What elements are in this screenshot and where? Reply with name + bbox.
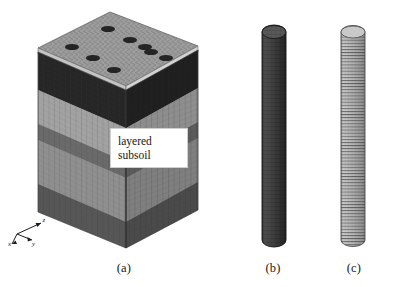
- coordinate-axis-triad: z y x: [8, 213, 50, 247]
- pile-hole: [107, 67, 121, 73]
- panel-b-pile-mesh-dark: [258, 18, 290, 252]
- pile-hole: [86, 55, 100, 61]
- pile-hole: [144, 49, 158, 55]
- pile-hole: [159, 55, 173, 61]
- callout-line-1: layered: [118, 134, 187, 148]
- layered-subsoil-callout: layered subsoil: [110, 128, 188, 168]
- callout-line-2: subsoil: [118, 148, 187, 162]
- axis-label-y: y: [31, 240, 36, 247]
- pile-hole: [101, 26, 115, 32]
- panel-c-pile-mesh-light-ringed: [338, 18, 368, 252]
- caption-c: (c): [334, 261, 374, 276]
- pile-hole: [65, 44, 79, 50]
- axis-label-x: x: [8, 240, 12, 247]
- figure-canvas: layered subsoil z y x: [0, 0, 404, 287]
- pile-b-top-mesh: [262, 26, 286, 39]
- pile-c-svg: [338, 18, 368, 252]
- pile-b-body: [258, 18, 290, 252]
- pile-c-top-cap: [341, 26, 365, 38]
- caption-a: (a): [104, 261, 144, 276]
- caption-b: (b): [253, 261, 293, 276]
- pile-hole: [123, 37, 137, 43]
- axis-label-z: z: [42, 216, 46, 224]
- panel-a-layered-subsoil-block: layered subsoil z y x: [0, 0, 215, 258]
- pile-c-body: [338, 18, 368, 252]
- pile-b-svg: [258, 18, 290, 252]
